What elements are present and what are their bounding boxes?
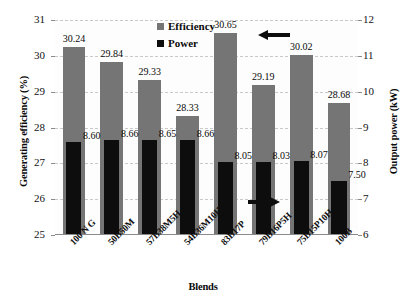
y-axis-left-tick-mark <box>51 163 55 164</box>
arrow-right-head <box>270 197 280 207</box>
arrow-right-icon <box>248 197 280 207</box>
legend-swatch-efficiency <box>157 23 164 30</box>
legend-item-efficiency: Efficiency <box>157 18 215 35</box>
x-axis-title: Blends <box>0 281 406 292</box>
bar-group[interactable] <box>63 20 86 235</box>
y-axis-left-tick-mark <box>51 20 55 21</box>
bar-value-label-power: 8.66 <box>121 128 139 139</box>
bar-power[interactable] <box>218 162 233 235</box>
bar-value-label-efficiency: 29.19 <box>252 71 275 82</box>
y-axis-right-tick-mark <box>358 199 362 200</box>
bar-value-label-power: 8.03 <box>272 150 290 161</box>
bar-value-label-power: 8.60 <box>83 130 101 141</box>
legend-label-power: Power <box>168 35 198 52</box>
bar-value-label-power: 8.65 <box>159 128 177 139</box>
y-axis-left-tick-mark <box>51 128 55 129</box>
bar-value-label-efficiency: 29.33 <box>138 66 161 77</box>
y-axis-left-tick-label: 30 <box>11 49 45 61</box>
bar-value-label-power: 8.66 <box>197 128 215 139</box>
bar-value-label-power: 8.07 <box>310 149 328 160</box>
bar-value-label-power: 7.50 <box>348 169 366 180</box>
y-axis-right-tick-mark <box>358 20 362 21</box>
y-axis-left-tick-mark <box>51 199 55 200</box>
bar-power[interactable] <box>142 140 157 235</box>
arrow-left-shaft <box>267 33 290 37</box>
y-axis-right-tick-label: 11 <box>363 49 393 61</box>
y-axis-right-tick-mark <box>358 92 362 93</box>
bar-value-label-efficiency: 28.68 <box>328 89 351 100</box>
y-axis-right-tick-mark <box>358 163 362 164</box>
y-axis-right-tick-mark <box>358 56 362 57</box>
y-axis-left-tick-mark <box>51 92 55 93</box>
y-axis-right-tick-label: 12 <box>363 13 393 25</box>
y-axis-left-tick-label: 26 <box>11 192 45 204</box>
bar-power[interactable] <box>66 142 81 235</box>
y-axis-right-tick-mark <box>358 128 362 129</box>
arrow-right-shaft <box>248 200 271 204</box>
legend-item-power: Power <box>157 35 215 52</box>
y-axis-right-tick-label: 6 <box>363 228 393 240</box>
bar-power[interactable] <box>180 140 195 235</box>
y-axis-left-tick-mark <box>51 56 55 57</box>
bar-power[interactable] <box>104 140 119 235</box>
chart-legend: Efficiency Power <box>157 18 215 52</box>
bar-group[interactable] <box>176 20 199 235</box>
y-axis-left-tick-label: 25 <box>11 228 45 240</box>
bar-group[interactable] <box>214 20 237 235</box>
bar-power[interactable] <box>294 161 309 235</box>
bar-group[interactable] <box>290 20 313 235</box>
bar-value-label-efficiency: 30.02 <box>290 41 313 52</box>
chart-container: Generating efficiency (%) Output power (… <box>0 0 406 303</box>
y-axis-right-tick-label: 9 <box>363 121 393 133</box>
bar-value-label-power: 8.05 <box>235 150 253 161</box>
bar-value-label-efficiency: 30.65 <box>214 19 237 30</box>
y-axis-right-tick-label: 8 <box>363 156 393 168</box>
arrow-left-icon <box>258 30 290 40</box>
bar-value-label-efficiency: 29.84 <box>101 48 124 59</box>
y-axis-left-tick-label: 28 <box>11 121 45 133</box>
y-axis-left-tick-label: 27 <box>11 156 45 168</box>
y-axis-left-tick-mark <box>51 235 55 236</box>
bar-value-label-efficiency: 28.33 <box>176 102 199 113</box>
y-axis-left-tick-label: 31 <box>11 13 45 25</box>
y-axis-right-tick-label: 10 <box>363 85 393 97</box>
bar-group[interactable] <box>328 20 351 235</box>
bar-group[interactable] <box>138 20 161 235</box>
legend-swatch-power <box>157 40 164 47</box>
y-axis-right-tick-mark <box>358 235 362 236</box>
bar-value-label-efficiency: 30.24 <box>63 33 86 44</box>
y-axis-left-tick-label: 29 <box>11 85 45 97</box>
y-axis-right-tick-label: 7 <box>363 192 393 204</box>
legend-label-efficiency: Efficiency <box>168 18 215 35</box>
